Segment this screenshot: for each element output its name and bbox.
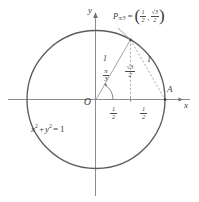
radius-length-label: 1: [103, 54, 107, 63]
y-axis-arrow-icon: [93, 12, 98, 18]
tick-2-numerator: 1: [142, 106, 145, 112]
height-fraction-label: √3 2: [125, 64, 135, 78]
tick-2-denominator: 2: [142, 114, 145, 120]
x-axis-label: x: [184, 101, 188, 110]
angle-denominator: 3: [104, 76, 107, 83]
tick-label-second: 1 2: [140, 106, 147, 121]
coord-x-denominator: 2: [141, 16, 146, 23]
point-a-label: A: [167, 85, 173, 94]
tick-label-first: 1 2: [110, 106, 117, 121]
point-p-subscript: π/3: [118, 15, 125, 21]
tick-1-denominator: 2: [112, 114, 115, 120]
angle-numerator: π: [104, 68, 107, 75]
equation-right-side: 1: [59, 124, 66, 134]
y-axis-label: y: [88, 6, 92, 15]
height-numerator: √3: [127, 64, 134, 70]
dashed-chord-segment-PA: [131, 40, 166, 100]
point-p-equals: =: [126, 11, 135, 21]
coord-close-paren: ): [159, 9, 165, 23]
coord-y-fraction: √3 2: [151, 9, 160, 23]
circle-equation: x2+y2=1: [31, 123, 65, 134]
coord-y-denominator: 2: [152, 16, 157, 23]
origin-label: O: [84, 98, 91, 108]
chord-length-label: 1: [147, 55, 151, 64]
coord-comma: ,: [146, 13, 150, 22]
angle-arc: [105, 85, 114, 100]
point-p-coordinates: 1 2 , √3 2: [140, 9, 159, 23]
height-denominator: 2: [128, 72, 131, 78]
x-axis-arrow-icon: [179, 97, 184, 101]
unit-circle-figure: y x O A Pπ/3 = ( 1 2 , √3 2 ) 1 1 √3 2: [0, 0, 199, 202]
diagram-canvas: [0, 0, 199, 202]
point-p-label-group: Pπ/3 = ( 1 2 , √3 2 ): [113, 9, 165, 23]
equation-equals-sign: =: [52, 124, 59, 134]
tick-1-numerator: 1: [112, 106, 115, 112]
point-A-marker: [164, 98, 167, 101]
p-label-leader: [118, 28, 131, 40]
equation-plus-sign: +: [38, 124, 45, 134]
angle-fraction-label: π 3: [103, 68, 109, 83]
